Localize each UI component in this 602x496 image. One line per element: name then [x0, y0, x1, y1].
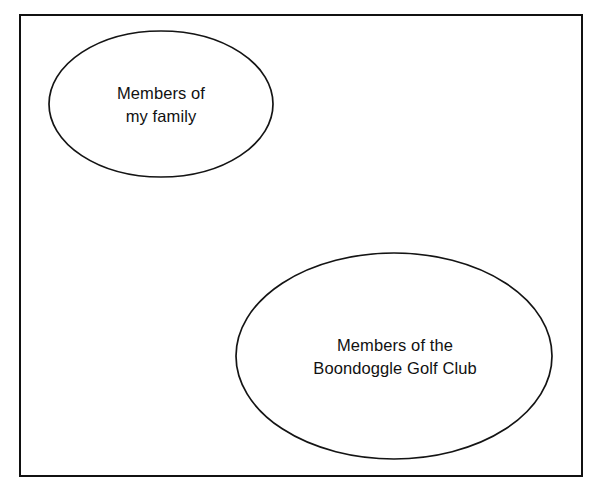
- set-label-family: Members of my family: [117, 82, 205, 128]
- set-label-golf-club-line-1: Members of the: [313, 334, 476, 357]
- universal-set-rectangle: [19, 14, 583, 477]
- set-label-family-line-2: my family: [117, 105, 205, 128]
- set-label-golf-club: Members of the Boondoggle Golf Club: [313, 334, 476, 380]
- venn-diagram-figure: Members of my family Members of the Boon…: [0, 0, 602, 496]
- set-label-family-line-1: Members of: [117, 82, 205, 105]
- set-label-golf-club-line-2: Boondoggle Golf Club: [313, 357, 476, 380]
